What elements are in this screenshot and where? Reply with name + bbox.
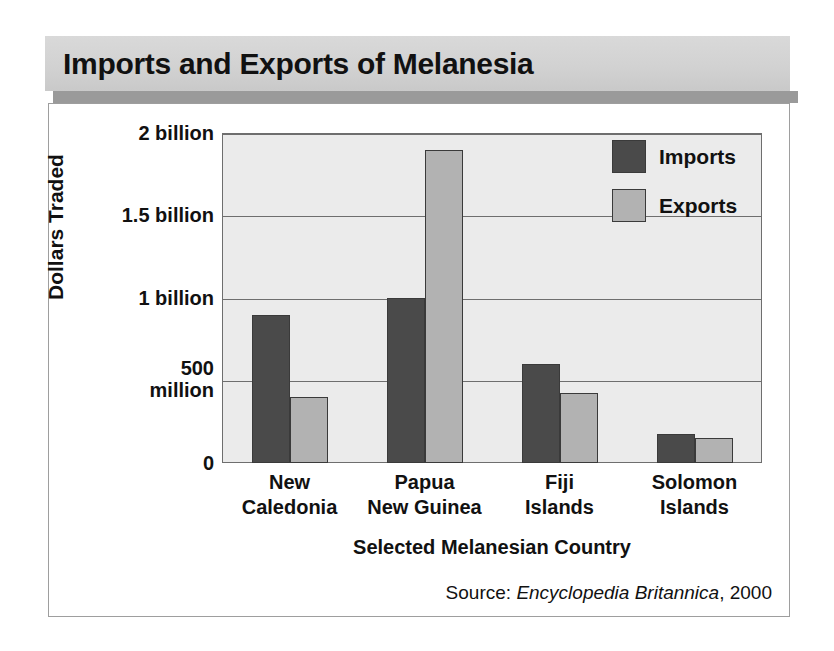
y-tick-500-million-line2: million [69, 379, 214, 401]
bar-group-fiji-islands [492, 133, 627, 463]
y-tick-500-million-line1: 500 [69, 357, 214, 379]
x-tick-fiji-islands-line1: Fiji [492, 470, 627, 495]
bar-exports-solomon-islands [695, 438, 733, 463]
legend-swatch-imports-icon [612, 140, 646, 173]
bar-exports-fiji-islands [560, 393, 598, 463]
bar-exports-papua-new-guinea [425, 150, 463, 464]
x-tick-new-caledonia: New Caledonia [222, 470, 357, 520]
x-tick-solomon-islands-line2: Islands [627, 495, 762, 520]
legend-item-imports: Imports [612, 140, 762, 173]
x-tick-solomon-islands-line1: Solomon [627, 470, 762, 495]
y-tick-1-billion: 1 billion [69, 287, 214, 309]
bar-imports-papua-new-guinea [387, 298, 425, 463]
legend-label-exports: Exports [659, 194, 737, 218]
bar-imports-new-caledonia [252, 315, 290, 464]
x-axis-label: Selected Melanesian Country [222, 536, 762, 559]
legend-label-imports: Imports [659, 145, 736, 169]
source-publication: Encyclopedia Britannica [516, 582, 719, 603]
chart-title-banner: Imports and Exports of Melanesia [45, 36, 790, 91]
chart-legend: Imports Exports [612, 140, 762, 238]
x-tick-papua-new-guinea-line1: Papua [357, 470, 492, 495]
x-tick-papua-new-guinea-line2: New Guinea [357, 495, 492, 520]
bar-group-new-caledonia [222, 133, 357, 463]
bar-group-papua-new-guinea [357, 133, 492, 463]
legend-item-exports: Exports [612, 189, 762, 222]
x-tick-solomon-islands: Solomon Islands [627, 470, 762, 520]
x-tick-new-caledonia-line2: Caledonia [222, 495, 357, 520]
y-tick-1-5-billion: 1.5 billion [69, 204, 214, 226]
bar-imports-fiji-islands [522, 364, 560, 463]
bar-imports-solomon-islands [657, 434, 695, 463]
y-tick-2-billion: 2 billion [69, 122, 214, 144]
page-title: Imports and Exports of Melanesia [45, 47, 534, 81]
y-axis-ticks: 2 billion 1.5 billion 1 billion 500 mill… [62, 133, 214, 463]
title-banner-shadow [53, 91, 798, 103]
source-year: , 2000 [719, 582, 772, 603]
x-tick-fiji-islands: Fiji Islands [492, 470, 627, 520]
legend-swatch-exports-icon [612, 189, 646, 222]
x-tick-fiji-islands-line2: Islands [492, 495, 627, 520]
bar-exports-new-caledonia [290, 397, 328, 463]
y-axis-label: Dollars Traded [44, 142, 68, 312]
x-axis-ticks: New Caledonia Papua New Guinea Fiji Isla… [222, 470, 762, 530]
x-tick-papua-new-guinea: Papua New Guinea [357, 470, 492, 520]
source-citation: Source: Encyclopedia Britannica, 2000 [446, 582, 772, 604]
x-tick-new-caledonia-line1: New [222, 470, 357, 495]
y-tick-zero: 0 [69, 452, 214, 474]
source-prefix: Source: [446, 582, 511, 603]
